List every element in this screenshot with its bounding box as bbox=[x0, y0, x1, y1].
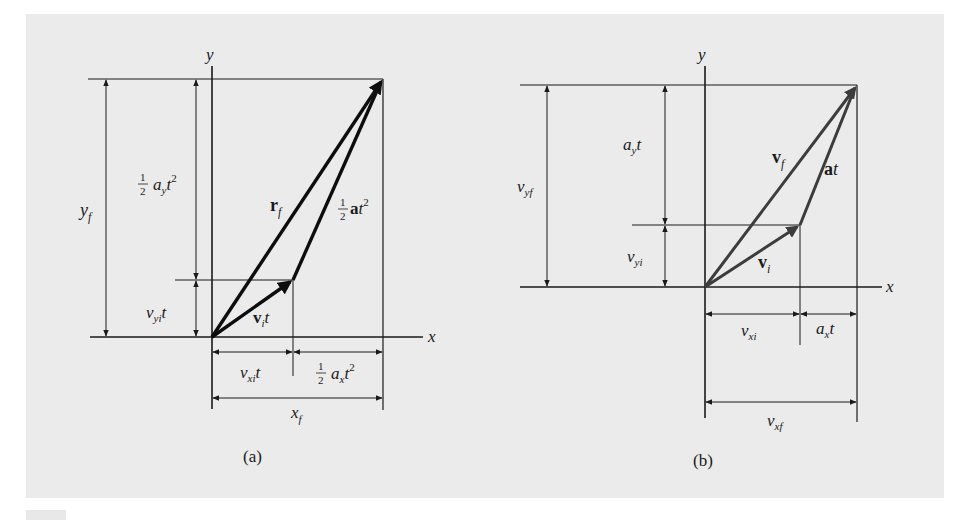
svg-text:at2: at2 bbox=[350, 196, 369, 218]
label-vector-vi-t: vit bbox=[253, 308, 271, 329]
vector-v-i bbox=[705, 227, 797, 287]
vector-vi-t bbox=[212, 282, 290, 337]
label-v-xi: vxi bbox=[741, 321, 757, 342]
label-half-ay-t2: 1 2 ayt2 bbox=[138, 171, 177, 197]
label-ay-t: ayt bbox=[623, 135, 642, 156]
label-vector-a-t: at bbox=[824, 159, 839, 179]
label-v-yf: vyf bbox=[517, 177, 534, 198]
label-y-f: yf bbox=[78, 200, 93, 224]
svg-text:1: 1 bbox=[318, 360, 324, 372]
x-axis-label-a: x bbox=[427, 327, 436, 346]
label-vxi-t: vxit bbox=[240, 363, 262, 384]
svg-text:ayt2: ayt2 bbox=[153, 172, 177, 196]
label-v-xf: vxf bbox=[767, 411, 784, 432]
kinematics-diagram: y x yf 1 2 ayt2 vyit vxit 1 2 axt2 bbox=[0, 0, 969, 528]
label-vector-v-f: vf bbox=[772, 147, 786, 171]
label-vector-half-a-t2: 1 2 at2 bbox=[338, 196, 369, 222]
svg-text:2: 2 bbox=[318, 374, 324, 386]
svg-text:2: 2 bbox=[140, 185, 146, 197]
caption-b: (b) bbox=[693, 451, 713, 470]
y-axis-label-a: y bbox=[204, 45, 214, 64]
svg-text:1: 1 bbox=[340, 196, 346, 208]
vector-v-f bbox=[705, 88, 855, 287]
panel-a bbox=[88, 66, 423, 410]
label-v-yi: vyi bbox=[627, 247, 643, 268]
figure-caption-fragment bbox=[26, 510, 66, 520]
svg-text:2: 2 bbox=[340, 210, 346, 222]
panel-b bbox=[520, 66, 882, 422]
label-ax-t: axt bbox=[816, 319, 835, 340]
label-half-ax-t2: 1 2 axt2 bbox=[316, 360, 355, 386]
label-vyi-t: vyit bbox=[146, 303, 168, 324]
svg-text:axt2: axt2 bbox=[331, 361, 355, 385]
label-vector-v-i: vi bbox=[758, 252, 770, 276]
x-axis-label-b: x bbox=[885, 277, 894, 296]
label-x-f: xf bbox=[290, 403, 304, 425]
caption-a: (a) bbox=[243, 447, 262, 466]
svg-text:1: 1 bbox=[140, 171, 146, 183]
y-axis-label-b: y bbox=[696, 45, 706, 64]
vector-a-t bbox=[800, 90, 854, 225]
label-vector-r-f: rf bbox=[270, 195, 283, 219]
vector-half-a-t2 bbox=[293, 84, 380, 280]
labels-a: y x yf 1 2 ayt2 vyit vxit 1 2 axt2 bbox=[78, 45, 436, 466]
